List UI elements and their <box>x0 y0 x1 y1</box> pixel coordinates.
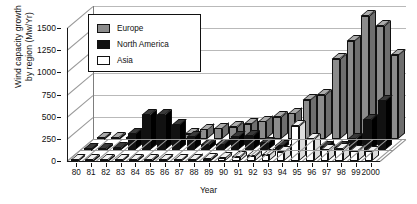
x-tick-label-83: 83 <box>116 168 125 177</box>
x-tick-mark <box>91 163 92 167</box>
bar-side <box>398 49 405 139</box>
x-tick-mark <box>121 163 122 167</box>
x-tick-label-96: 96 <box>307 168 316 177</box>
legend-swatch-asia <box>97 56 110 65</box>
floor-gridline <box>93 139 406 140</box>
x-tick-mark <box>371 163 372 167</box>
legend-item-europe: Europe <box>89 20 200 36</box>
y-tick-label-1500: 1500 <box>22 23 56 33</box>
bar-face <box>332 59 340 139</box>
bar-side <box>165 109 172 150</box>
x-tick-label-91: 91 <box>234 168 243 177</box>
gridline <box>93 6 406 7</box>
x-tick-mark <box>106 163 107 167</box>
x-tick-label-86: 86 <box>160 168 169 177</box>
y-tick-mark <box>57 117 61 118</box>
x-tick-label-94: 94 <box>278 168 287 177</box>
x-tick-label-98: 98 <box>337 168 346 177</box>
x-tick-mark <box>341 163 342 167</box>
bar-side <box>340 53 347 139</box>
x-tick-mark <box>135 163 136 167</box>
x-tick-mark <box>356 163 357 167</box>
legend-label-europe: Europe <box>117 24 143 33</box>
y-tick-label-0: 0 <box>22 156 56 166</box>
bar-north-america-80 <box>84 149 92 150</box>
x-tick-mark <box>209 163 210 167</box>
bar-side <box>354 35 361 139</box>
bar-side <box>371 114 378 150</box>
x-tick-label-93: 93 <box>263 168 272 177</box>
x-tick-label-82: 82 <box>101 168 110 177</box>
x-tick-mark <box>76 163 77 167</box>
x-tick-label-90: 90 <box>219 168 228 177</box>
x-tick-mark <box>179 163 180 167</box>
y-axis-line <box>67 28 68 161</box>
x-tick-mark <box>268 163 269 167</box>
x-tick-mark <box>165 163 166 167</box>
y-tick-label-500: 500 <box>22 112 56 122</box>
x-tick-label-80: 80 <box>72 168 81 177</box>
bar-face <box>84 148 92 150</box>
x-tick-mark <box>150 163 151 167</box>
x-tick-label-85: 85 <box>145 168 154 177</box>
x-tick-mark <box>224 163 225 167</box>
bar-face <box>347 41 355 139</box>
y-tick-mark <box>57 72 61 73</box>
bar-face <box>97 137 105 139</box>
x-tick-mark <box>194 163 195 167</box>
x-axis-label: Year <box>0 185 417 195</box>
y-tick-mark <box>57 50 61 51</box>
x-axis-ticks: 8081828384858687888990919293949596979899… <box>0 168 417 182</box>
x-tick-label-92: 92 <box>248 168 257 177</box>
x-tick-label-81: 81 <box>87 168 96 177</box>
x-tick-label-2000: 2000 <box>362 168 380 177</box>
bar-side <box>299 120 306 161</box>
bar-europe-96 <box>332 59 340 139</box>
floor-gridline <box>67 117 94 140</box>
bar-europe-97 <box>347 41 355 139</box>
x-tick-mark <box>312 163 313 167</box>
bar-face <box>273 117 281 139</box>
bar-europe-80 <box>97 138 105 139</box>
bar-side <box>150 109 157 150</box>
legend-swatch-north-america <box>97 40 110 49</box>
x-tick-label-95: 95 <box>293 168 302 177</box>
floor-gridline <box>67 161 380 162</box>
legend-label-asia: Asia <box>117 56 133 65</box>
bar-side <box>325 89 332 139</box>
floor-gridline <box>80 150 393 151</box>
y-tick-mark <box>57 161 61 162</box>
bar-face <box>214 128 222 139</box>
x-tick-label-97: 97 <box>322 168 331 177</box>
x-tick-label-99: 99 <box>351 168 360 177</box>
bar-europe-92 <box>273 117 281 139</box>
y-tick-label-250: 250 <box>22 134 56 144</box>
bar-europe-88 <box>214 128 222 139</box>
wind-capacity-bar-chart: Wind capacity growth by region (Mw/Yr) 0… <box>0 0 417 204</box>
y-tick-label-750: 750 <box>22 90 56 100</box>
y-tick-label-1000: 1000 <box>22 67 56 77</box>
floor-gridline <box>67 95 94 118</box>
legend-label-north-america: North America <box>117 40 169 49</box>
x-tick-mark <box>297 163 298 167</box>
chart-legend: Europe North America Asia <box>88 14 201 72</box>
x-tick-mark <box>238 163 239 167</box>
floor-gridline <box>67 73 94 96</box>
y-tick-mark <box>57 95 61 96</box>
y-tick-mark <box>57 28 61 29</box>
y-tick-mark <box>57 139 61 140</box>
x-tick-label-88: 88 <box>190 168 199 177</box>
legend-swatch-europe <box>97 24 110 33</box>
y-tick-label-1250: 1250 <box>22 45 56 55</box>
x-tick-mark <box>253 163 254 167</box>
legend-item-north-america: North America <box>89 36 200 52</box>
legend-item-asia: Asia <box>89 52 200 68</box>
bar-face <box>71 159 79 161</box>
bar-asia-80 <box>71 160 79 161</box>
x-tick-label-87: 87 <box>175 168 184 177</box>
bar-side <box>385 94 392 150</box>
x-tick-label-84: 84 <box>131 168 140 177</box>
x-tick-mark <box>327 163 328 167</box>
x-tick-mark <box>282 163 283 167</box>
x-tick-label-89: 89 <box>204 168 213 177</box>
